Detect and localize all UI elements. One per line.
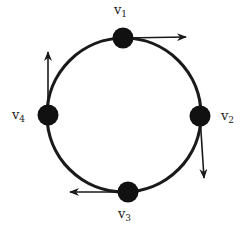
vertex-label-v3: v3 <box>117 206 131 223</box>
vertex-ring-diagram: v1v2v3v4 <box>0 0 241 230</box>
vertex-label-v4: v4 <box>11 107 25 124</box>
vertex-node-v3 <box>118 182 139 203</box>
vertex-node-v4 <box>38 105 59 126</box>
vertex-label-v1: v1 <box>113 2 127 19</box>
vertex-nodes <box>38 28 211 203</box>
ring-circle <box>47 38 201 192</box>
vertex-node-v1 <box>113 28 134 49</box>
vertex-node-v2 <box>190 106 211 127</box>
vertex-label-v2: v2 <box>220 108 234 125</box>
